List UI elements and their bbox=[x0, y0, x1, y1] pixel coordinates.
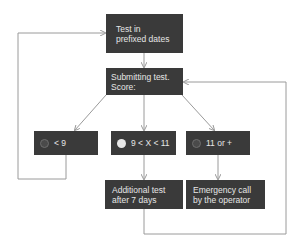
node-emergency-call: Emergency call by the operator bbox=[186, 180, 265, 209]
node-submitting-test: Submitting test. Score: bbox=[106, 68, 183, 95]
node-label: Submitting test. Score: bbox=[111, 72, 170, 92]
node-label: 9 < X < 11 bbox=[131, 138, 170, 148]
node-label: 11 or + bbox=[206, 138, 232, 148]
node-label: Test in prefixed dates bbox=[116, 24, 169, 44]
circle-outline-icon bbox=[192, 139, 201, 148]
circle-outline-icon bbox=[40, 139, 49, 148]
node-label: Additional test after 7 days bbox=[112, 185, 165, 205]
circle-filled-icon bbox=[117, 139, 126, 148]
node-additional-test: Additional test after 7 days bbox=[105, 180, 183, 209]
node-label: < 9 bbox=[54, 138, 66, 148]
node-test-in-prefixed-dates: Test in prefixed dates bbox=[106, 14, 183, 53]
node-score-high: 11 or + bbox=[186, 131, 250, 155]
node-score-low: < 9 bbox=[34, 131, 98, 155]
node-label: Emergency call by the operator bbox=[193, 185, 251, 205]
node-score-mid: 9 < X < 11 bbox=[111, 131, 176, 155]
